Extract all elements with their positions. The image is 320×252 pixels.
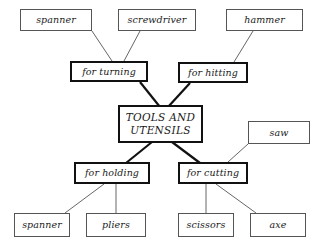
node-label: spanner	[20, 220, 64, 230]
node-hammer[interactable]: hammer	[226, 9, 303, 31]
root-label-line-2: UTENSILS	[126, 124, 196, 137]
node-spanner-top[interactable]: spanner	[20, 9, 92, 31]
node-label: screwdriver	[126, 15, 189, 25]
node-label: for hitting	[186, 68, 240, 78]
link-spanner-top-to-for-turning	[92, 31, 112, 61]
link-for-holding-to-spanner-bottom	[65, 184, 104, 213]
link-root-to-for-cutting	[172, 142, 200, 163]
link-screwdriver-to-for-turning	[124, 31, 140, 61]
node-for-cutting[interactable]: for cutting	[178, 162, 248, 184]
node-axe[interactable]: axe	[250, 213, 306, 237]
node-pliers[interactable]: pliers	[86, 213, 146, 237]
link-for-cutting-to-axe	[216, 184, 256, 213]
node-label: pliers	[100, 220, 132, 230]
link-root-to-for-holding	[126, 142, 152, 163]
node-screwdriver[interactable]: screwdriver	[118, 9, 196, 31]
node-label: TOOLS AND UTENSILS	[124, 111, 198, 137]
node-label: for holding	[83, 168, 141, 178]
node-for-hitting[interactable]: for hitting	[178, 62, 248, 83]
node-label: axe	[268, 220, 289, 230]
node-scissors[interactable]: scissors	[178, 213, 234, 237]
node-label: spanner	[34, 15, 78, 25]
node-label: for turning	[80, 67, 138, 77]
link-for-hitting-to-root	[168, 83, 190, 107]
link-for-turning-to-root	[140, 82, 160, 107]
root-label-line-1: TOOLS AND	[126, 111, 196, 123]
node-spanner-bottom[interactable]: spanner	[14, 213, 70, 237]
node-label: scissors	[185, 220, 228, 230]
link-hammer-to-for-hitting	[234, 31, 253, 62]
node-root-tools-and-utensils[interactable]: TOOLS AND UTENSILS	[118, 105, 203, 143]
node-for-holding[interactable]: for holding	[74, 162, 150, 184]
concept-map-canvas: spanner screwdriver hammer for turning f…	[0, 0, 320, 252]
node-saw[interactable]: saw	[248, 121, 310, 144]
link-saw-to-for-cutting	[228, 144, 248, 162]
node-label: for cutting	[185, 168, 241, 178]
node-label: saw	[268, 128, 291, 138]
node-for-turning[interactable]: for turning	[70, 61, 148, 82]
node-label: hammer	[242, 15, 287, 25]
